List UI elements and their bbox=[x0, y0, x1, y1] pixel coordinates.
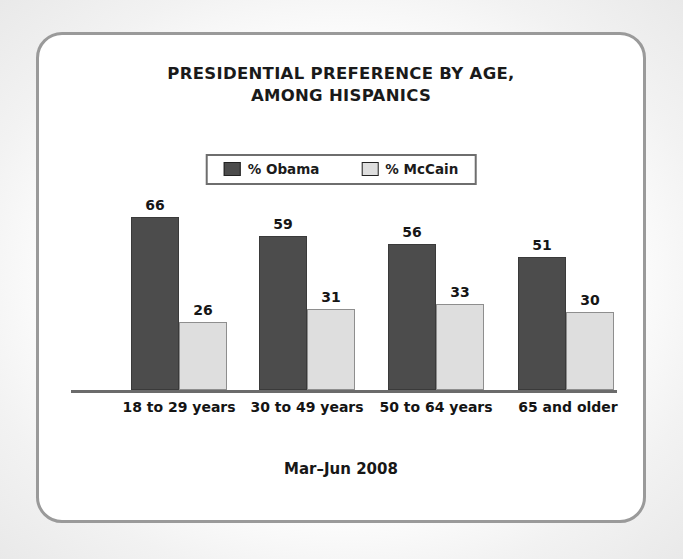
bar-value-label: 66 bbox=[131, 197, 179, 213]
bar-mccain[interactable] bbox=[436, 304, 484, 390]
bar-wrapper: 51 bbox=[518, 207, 566, 390]
chart-title-line-1: PRESIDENTIAL PREFERENCE BY AGE, bbox=[39, 63, 643, 85]
bar-wrapper: 56 bbox=[388, 207, 436, 390]
bar-mccain[interactable] bbox=[566, 312, 614, 390]
bar-wrapper: 31 bbox=[307, 207, 355, 390]
legend-label-mccain: % McCain bbox=[385, 161, 458, 177]
category-label: 30 to 49 years bbox=[237, 399, 377, 415]
bar-wrapper: 59 bbox=[259, 207, 307, 390]
chart-title-line-2: AMONG HISPANICS bbox=[39, 85, 643, 107]
bar-group: 6626 bbox=[131, 207, 227, 390]
bar-wrapper: 33 bbox=[436, 207, 484, 390]
bar-obama[interactable] bbox=[259, 236, 307, 390]
category-label: 50 to 64 years bbox=[366, 399, 506, 415]
plot-area: 6626593156335130 bbox=[71, 207, 617, 393]
category-label: 65 and older bbox=[503, 399, 633, 415]
chart-card: PRESIDENTIAL PREFERENCE BY AGE, AMONG HI… bbox=[36, 32, 646, 523]
bar-value-label: 33 bbox=[436, 284, 484, 300]
bar-group: 5633 bbox=[388, 207, 484, 390]
bar-value-label: 26 bbox=[179, 302, 227, 318]
legend-label-obama: % Obama bbox=[248, 161, 320, 177]
bar-value-label: 51 bbox=[518, 237, 566, 253]
bar-mccain[interactable] bbox=[307, 309, 355, 390]
bar-wrapper: 30 bbox=[566, 207, 614, 390]
bar-group: 5130 bbox=[518, 207, 614, 390]
chart-footnote: Mar–Jun 2008 bbox=[39, 460, 643, 478]
bar-wrapper: 66 bbox=[131, 207, 179, 390]
bar-group: 5931 bbox=[259, 207, 355, 390]
bar-value-label: 59 bbox=[259, 216, 307, 232]
legend-swatch-obama-icon bbox=[224, 162, 241, 176]
bar-obama[interactable] bbox=[388, 244, 436, 390]
bar-value-label: 30 bbox=[566, 292, 614, 308]
bar-value-label: 31 bbox=[307, 289, 355, 305]
chart-title: PRESIDENTIAL PREFERENCE BY AGE, AMONG HI… bbox=[39, 63, 643, 107]
legend-swatch-mccain-icon bbox=[361, 162, 378, 176]
bar-obama[interactable] bbox=[518, 257, 566, 390]
legend-item-mccain: % McCain bbox=[361, 161, 458, 177]
bar-value-label: 56 bbox=[388, 224, 436, 240]
x-axis-category-labels: 18 to 29 years30 to 49 years50 to 64 yea… bbox=[71, 399, 631, 421]
legend-item-obama: % Obama bbox=[224, 161, 320, 177]
bar-obama[interactable] bbox=[131, 217, 179, 390]
category-label: 18 to 29 years bbox=[109, 399, 249, 415]
x-axis-line bbox=[71, 390, 617, 393]
bar-mccain[interactable] bbox=[179, 322, 227, 390]
chart-legend: % Obama % McCain bbox=[206, 154, 477, 185]
bar-wrapper: 26 bbox=[179, 207, 227, 390]
